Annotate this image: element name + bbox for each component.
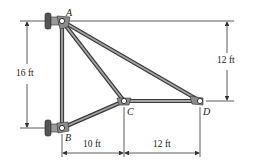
label-point-d: D: [203, 107, 210, 117]
label-point-b: B: [65, 133, 71, 143]
wall-support-b: [45, 120, 59, 136]
truss-diagram: A B C D 16 ft 12 ft 10 ft 12 ft: [0, 0, 254, 167]
dimension-label-10ft: 10 ft: [83, 140, 101, 150]
pin-c: [121, 98, 126, 103]
pin-b: [59, 125, 64, 130]
extension-lines: [20, 21, 234, 157]
wall-support-a: [45, 13, 59, 29]
truss-drawing: [0, 0, 254, 167]
dimension-label-bottom-12ft: 12 ft: [153, 140, 171, 150]
dimension-label-16ft: 16 ft: [16, 69, 34, 79]
label-point-a: A: [66, 8, 72, 18]
dimension-label-right-12ft: 12 ft: [217, 56, 235, 66]
label-point-c: C: [127, 107, 134, 117]
pin-a: [59, 18, 64, 23]
pin-d: [197, 98, 202, 103]
